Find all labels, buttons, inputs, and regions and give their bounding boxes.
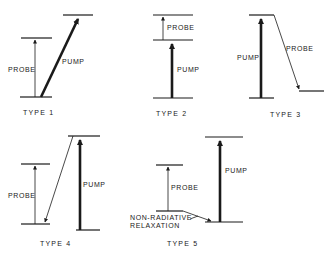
panel-type-2: PROBE PUMP TYPE 2	[153, 15, 200, 117]
energy-level-diagram: PROBE PUMP TYPE 1 PROBE PUMP TYPE 2 PUMP…	[0, 0, 330, 255]
panel-caption: TYPE 5	[167, 240, 198, 247]
emission-arrow	[45, 136, 73, 222]
probe-arrow	[274, 15, 299, 89]
probe-label: PROBE	[8, 66, 36, 73]
pump-label: PUMP	[237, 54, 260, 61]
panel-caption: TYPE 2	[156, 110, 187, 117]
panel-type-1: PROBE PUMP TYPE 1	[8, 15, 93, 116]
probe-label: PROBE	[8, 192, 36, 199]
pump-label: PUMP	[83, 181, 106, 188]
panel-caption: TYPE 4	[40, 240, 71, 247]
panel-type-4: PROBE PUMP TYPE 4	[8, 136, 106, 247]
relaxation-label-line2: RELAXATION	[130, 222, 180, 229]
panel-type-5: PROBE PUMP NON-RADIATIVE RELAXATION TYPE…	[130, 137, 248, 247]
pump-label: PUMP	[225, 167, 248, 174]
pump-label: PUMP	[62, 58, 85, 65]
panel-caption: TYPE 3	[270, 111, 301, 118]
probe-label: PROBE	[171, 184, 199, 191]
panel-type-3: PUMP PROBE TYPE 3	[237, 15, 324, 118]
probe-label: PROBE	[286, 45, 314, 52]
pump-label: PUMP	[177, 66, 200, 73]
relaxation-label-line1: NON-RADIATIVE	[130, 214, 192, 221]
panel-caption: TYPE 1	[23, 109, 54, 116]
probe-label: PROBE	[167, 24, 195, 31]
